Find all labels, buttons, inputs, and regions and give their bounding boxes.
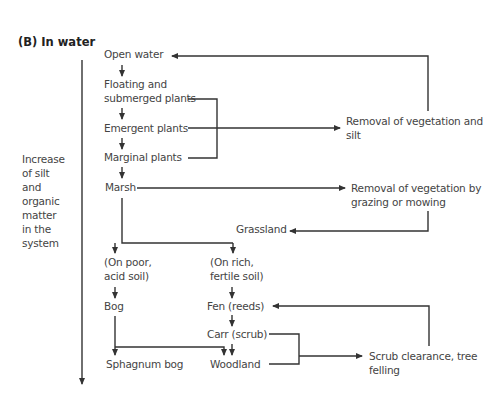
arrow-removal-silt-to-open-water bbox=[172, 56, 428, 111]
arrow-scrub-clearance-to-fen bbox=[273, 306, 429, 346]
arrow-bog-to-woodland bbox=[115, 347, 224, 355]
marsh-branch-line bbox=[122, 198, 233, 243]
connector-layer bbox=[0, 0, 484, 394]
bracket-carr-woodland bbox=[269, 334, 299, 364]
arrow-removal-grazing-to-grassland bbox=[290, 211, 428, 231]
